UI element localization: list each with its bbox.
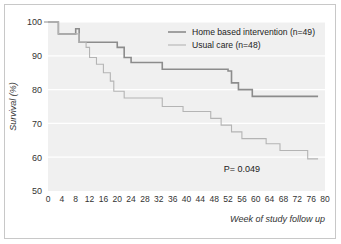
legend-label-1: Usual care (n=48) (192, 40, 261, 50)
x-tick-label: 28 (140, 194, 150, 204)
y-tick-label: 70 (32, 119, 42, 129)
x-axis: 048121620242832364044485256606468727680W… (46, 194, 330, 224)
x-tick-label: 68 (279, 194, 289, 204)
x-tick-label: 36 (168, 194, 178, 204)
y-tick-label: 80 (32, 85, 42, 95)
x-tick-label: 0 (46, 194, 51, 204)
y-axis: 1009080706050Survival (%) (8, 17, 48, 196)
x-tick-label: 80 (320, 194, 330, 204)
x-tick-label: 64 (265, 194, 275, 204)
y-axis-title: Survival (%) (8, 82, 18, 131)
x-tick-label: 32 (154, 194, 164, 204)
x-tick-label: 72 (293, 194, 303, 204)
y-tick-label: 60 (32, 153, 42, 163)
y-tick-label: 90 (32, 51, 42, 61)
x-tick-label: 44 (196, 194, 206, 204)
y-tick-label: 50 (32, 186, 42, 196)
x-tick-label: 40 (182, 194, 192, 204)
legend-label-0: Home based intervention (n=49) (192, 27, 315, 37)
figure-container: 1009080706050Survival (%) 04812162024283… (0, 0, 341, 244)
y-tick-label: 100 (27, 17, 42, 27)
x-tick-label: 4 (59, 194, 64, 204)
x-tick-label: 60 (251, 194, 261, 204)
x-tick-label: 16 (99, 194, 109, 204)
annotations: P= 0.049 (224, 164, 260, 174)
x-tick-label: 52 (223, 194, 233, 204)
x-axis-title: Week of study follow up (230, 214, 325, 224)
x-tick-label: 24 (126, 194, 136, 204)
x-tick-label: 76 (306, 194, 316, 204)
x-tick-label: 20 (113, 194, 123, 204)
x-tick-label: 8 (73, 194, 78, 204)
survival-chart: 1009080706050Survival (%) 04812162024283… (0, 0, 341, 244)
x-tick-label: 12 (85, 194, 95, 204)
p-value-annotation: P= 0.049 (224, 164, 260, 174)
x-tick-label: 56 (237, 194, 247, 204)
x-tick-label: 48 (209, 194, 219, 204)
